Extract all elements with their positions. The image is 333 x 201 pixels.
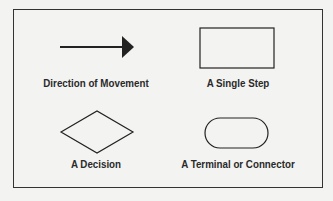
- label-decision: A Decision: [28, 158, 164, 170]
- legend-shapes: [0, 0, 333, 201]
- label-single-step: A Single Step: [170, 77, 306, 89]
- terminal-connector-shape: [205, 118, 268, 148]
- label-terminal-connector: A Terminal or Connector: [170, 158, 306, 170]
- arrow-icon: [60, 36, 134, 58]
- decision-diamond: [61, 111, 133, 153]
- process-step-rectangle: [200, 28, 274, 68]
- label-direction-of-movement: Direction of Movement: [28, 77, 164, 89]
